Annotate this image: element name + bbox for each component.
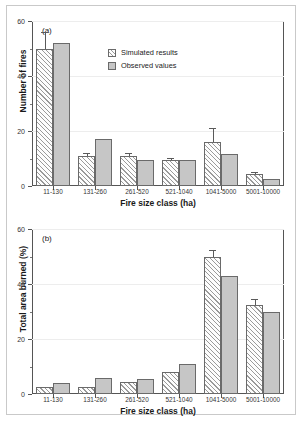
error-bar <box>213 250 214 257</box>
x-tick-label: 261-520 <box>125 188 148 195</box>
x-tick-label: 5001-10000 <box>246 188 280 195</box>
y-tick-label: 60 <box>3 18 25 25</box>
bar-simulated <box>204 257 221 395</box>
y-tick-label: 40 <box>3 281 25 288</box>
error-bar-cap <box>209 250 216 251</box>
gridline <box>32 229 284 230</box>
legend-label-simulated: Simulated results <box>121 48 178 57</box>
bar-simulated <box>36 49 53 187</box>
bar-simulated <box>120 382 137 394</box>
bar-observed <box>221 276 238 394</box>
y-tick-minor <box>30 159 33 160</box>
bar-simulated <box>120 156 137 186</box>
bar-simulated <box>246 174 263 186</box>
y-tick-mark <box>28 284 32 285</box>
bar-simulated <box>78 156 95 186</box>
x-tick-label: 11-130 <box>43 188 62 195</box>
x-tick-label: 521-1040 <box>165 396 192 403</box>
x-axis-title-b: Fire size class (ha) <box>32 406 284 416</box>
bar-observed <box>263 312 280 395</box>
bar-observed <box>179 364 196 394</box>
legend-a: Simulated results Observed values <box>108 48 178 74</box>
y-tick-label: 60 <box>3 226 25 233</box>
y-tick-label: 0 <box>3 391 25 398</box>
bar-simulated <box>246 305 263 394</box>
bar-observed <box>179 160 196 186</box>
legend-label-observed: Observed values <box>121 61 176 70</box>
x-tick-label: 131-260 <box>83 188 106 195</box>
error-bar-cap <box>251 299 258 300</box>
y-tick-mark <box>28 186 32 187</box>
y-tick-label: 20 <box>3 336 25 343</box>
y-tick-minor <box>30 312 33 313</box>
y-tick-minor <box>30 49 33 50</box>
bar-simulated <box>204 142 221 186</box>
x-tick-label: 261-520 <box>125 396 148 403</box>
x-tick-label: 5001-10000 <box>246 396 280 403</box>
y-tick-label: 40 <box>3 73 25 80</box>
y-tick-label: 0 <box>3 183 25 190</box>
x-tick-label: 1041-5000 <box>206 396 237 403</box>
y-tick-mark <box>28 394 32 395</box>
panel-a: (a) Number of fires Fire size class (ha)… <box>0 4 303 210</box>
x-tick-label: 131-260 <box>83 396 106 403</box>
plot-area-b <box>32 229 284 394</box>
bar-simulated <box>162 160 179 186</box>
x-tick-label: 1041-5000 <box>206 188 237 195</box>
bar-simulated <box>36 387 53 394</box>
x-axis-title-a: Fire size class (ha) <box>32 198 284 208</box>
legend-entry-simulated: Simulated results <box>108 48 178 57</box>
error-bar-cap <box>209 128 216 129</box>
y-tick-mark <box>28 229 32 230</box>
y-tick-minor <box>30 257 33 258</box>
bar-observed <box>53 43 70 186</box>
bar-observed <box>221 154 238 186</box>
bar-simulated <box>162 372 179 394</box>
y-tick-mark <box>28 339 32 340</box>
plot-area-a <box>32 21 284 186</box>
gridline <box>32 21 284 22</box>
bar-observed <box>95 378 112 395</box>
legend-entry-observed: Observed values <box>108 61 178 70</box>
error-bar-cap <box>41 32 48 33</box>
y-tick-mark <box>28 76 32 77</box>
gridline <box>32 284 284 285</box>
error-bar-cap <box>83 153 90 154</box>
x-tick-label: 11-130 <box>43 396 62 403</box>
gridline <box>32 76 284 77</box>
bar-observed <box>137 379 154 394</box>
figure-page: (a) Number of fires Fire size class (ha)… <box>0 0 303 422</box>
legend-swatch-simulated-icon <box>108 49 116 57</box>
y-tick-minor <box>30 367 33 368</box>
legend-swatch-observed-icon <box>108 62 116 70</box>
error-bar <box>45 32 46 49</box>
bar-simulated <box>78 387 95 394</box>
error-bar <box>213 128 214 142</box>
bar-observed <box>95 139 112 186</box>
error-bar-cap <box>167 158 174 159</box>
error-bar-cap <box>125 153 132 154</box>
gridline <box>32 131 284 132</box>
bar-observed <box>263 179 280 186</box>
panel-b: (b) Total area burned (%) Fire size clas… <box>0 212 303 418</box>
bar-observed <box>53 383 70 394</box>
y-tick-mark <box>28 21 32 22</box>
bar-observed <box>137 160 154 186</box>
y-tick-label: 20 <box>3 128 25 135</box>
y-tick-minor <box>30 104 33 105</box>
error-bar-cap <box>251 172 258 173</box>
y-tick-mark <box>28 131 32 132</box>
x-tick-label: 521-1040 <box>165 188 192 195</box>
